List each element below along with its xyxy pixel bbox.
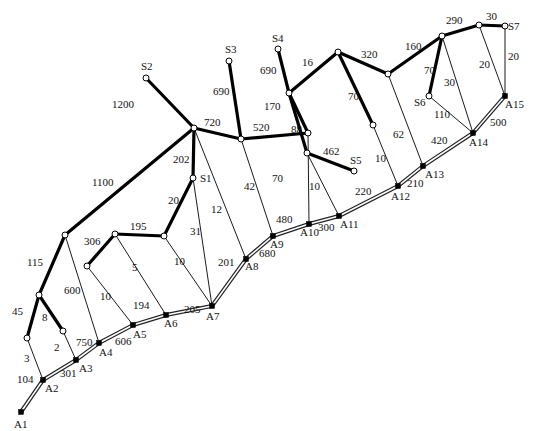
thick-pipe-length-label: 1100 bbox=[92, 176, 114, 188]
thin-pipe-J8-A3 bbox=[63, 331, 76, 360]
trunk-segment-length-label: 300 bbox=[318, 221, 335, 233]
open-node-J720 bbox=[191, 125, 197, 131]
open-node-J8 bbox=[60, 328, 66, 334]
open-node-J306 bbox=[84, 263, 90, 269]
thin-pipe-length-label: 110 bbox=[434, 108, 451, 120]
source-node-label: S3 bbox=[225, 43, 237, 55]
thick-pipe-length-label: 306 bbox=[84, 235, 101, 247]
thick-pipe-length-label: 462 bbox=[323, 145, 340, 157]
open-node-Jtop bbox=[335, 49, 341, 55]
thin-pipe-length-label: 31 bbox=[190, 225, 201, 237]
open-node-J290 bbox=[476, 22, 482, 28]
thick-pipe-J720-S2 bbox=[146, 78, 194, 128]
open-node-S6 bbox=[426, 93, 432, 99]
thick-pipe-length-label: 8 bbox=[42, 311, 48, 323]
thick-pipe-J170-S4 bbox=[278, 49, 289, 93]
thin-pipe-length-label: 2 bbox=[54, 341, 60, 353]
open-node-J45 bbox=[24, 335, 30, 341]
pipe-network-diagram: 3260010510311242701010621103020201200720… bbox=[0, 0, 535, 431]
thick-pipe-J115-J45 bbox=[27, 295, 39, 338]
trunk-segment-length-label: 606 bbox=[115, 335, 132, 347]
thick-pipe-length-label: 115 bbox=[27, 256, 44, 268]
thick-pipe-length-label: 290 bbox=[446, 14, 463, 26]
open-node-J1100 bbox=[62, 232, 68, 238]
trunk-node-label: A6 bbox=[164, 317, 178, 329]
thick-pipe-length-label: 170 bbox=[264, 100, 281, 112]
source-node-label: S6 bbox=[414, 96, 426, 108]
open-node-J160 bbox=[439, 33, 445, 39]
thin-pipe-length-label: 70 bbox=[272, 172, 284, 184]
trunk-node-label: A9 bbox=[270, 238, 284, 250]
open-node-S3 bbox=[226, 58, 232, 64]
thick-pipe-J520-S3 bbox=[229, 61, 241, 139]
thin-pipe-length-label: 30 bbox=[444, 76, 456, 88]
thin-pipe-length-label: 20 bbox=[508, 50, 520, 62]
thick-pipe-length-label: 70 bbox=[424, 64, 436, 76]
open-node-S5 bbox=[351, 168, 357, 174]
trunk-node-A4 bbox=[97, 341, 102, 346]
thin-pipe-J88-A10 bbox=[308, 133, 309, 224]
trunk-segment-length-label: 201 bbox=[218, 256, 235, 268]
source-node-label: S1 bbox=[200, 172, 212, 184]
thick-pipe-length-label: 320 bbox=[361, 48, 378, 60]
open-node-S1 bbox=[190, 175, 196, 181]
trunk-segment-length-label: 480 bbox=[276, 213, 293, 225]
trunk-node-A5 bbox=[131, 323, 136, 328]
thick-pipe-length-label: 30 bbox=[486, 10, 498, 22]
thick-pipe-length-label: 20 bbox=[168, 194, 180, 206]
open-node-J195a bbox=[112, 231, 118, 237]
trunk-segment-length-label: 750 bbox=[76, 336, 93, 348]
thick-pipe-J720-J520 bbox=[194, 128, 241, 139]
thin-pipe-length-label: 12 bbox=[211, 203, 222, 215]
thin-pipe-length-label: 600 bbox=[64, 284, 81, 296]
trunk-node-label: A15 bbox=[505, 98, 524, 110]
trunk-node-label: A13 bbox=[425, 168, 444, 180]
thin-pipe-length-label: 10 bbox=[309, 180, 321, 192]
thin-pipe-length-label: 42 bbox=[244, 180, 255, 192]
trunk-segment-length-label: 205 bbox=[184, 303, 201, 315]
trunk-node-label: A11 bbox=[340, 218, 359, 230]
thick-pipe-length-label: 1200 bbox=[112, 98, 135, 110]
trunk-node-label: A10 bbox=[300, 226, 319, 238]
open-node-J320 bbox=[385, 71, 391, 77]
trunk-node-A12 bbox=[396, 184, 401, 189]
thin-pipe-J195b-A7 bbox=[164, 236, 212, 306]
thin-pipe-length-label: 3 bbox=[24, 352, 30, 364]
open-node-J520 bbox=[238, 136, 244, 142]
trunk-segment-length-label: 420 bbox=[431, 134, 448, 146]
open-node-J462 bbox=[304, 150, 310, 156]
open-node-J70 bbox=[370, 122, 376, 128]
thick-pipe-J720-J1100 bbox=[65, 128, 194, 235]
thick-pipe-length-label: 195 bbox=[130, 220, 147, 232]
thick-pipe-J290-S7 bbox=[479, 25, 505, 26]
thin-pipe-length-label: 62 bbox=[393, 128, 404, 140]
thin-pipe-length-label: 10 bbox=[174, 255, 186, 267]
trunk-segment-length-label: 220 bbox=[355, 185, 372, 197]
trunk-node-A7 bbox=[210, 304, 215, 309]
thin-pipe-length-label: 20 bbox=[479, 58, 491, 70]
open-node-J115 bbox=[36, 292, 42, 298]
thick-pipe-length-label: 202 bbox=[173, 153, 190, 165]
thick-pipe-length-label: 45 bbox=[12, 305, 24, 317]
thick-pipe-length-label: 720 bbox=[204, 116, 221, 128]
thick-pipe-length-label: 16 bbox=[302, 56, 314, 68]
thick-pipe-length-label: 690 bbox=[260, 64, 277, 76]
trunk-node-label: A7 bbox=[206, 310, 220, 322]
trunk-node-label: A8 bbox=[245, 260, 259, 272]
trunk-node-label: A5 bbox=[133, 328, 147, 340]
trunk-segment-length-label: 210 bbox=[407, 177, 424, 189]
trunk-segment-length-label: 194 bbox=[133, 299, 150, 311]
trunk-node-A14 bbox=[471, 131, 476, 136]
thick-pipe-length-label: 88 bbox=[291, 123, 303, 135]
open-node-J170 bbox=[286, 90, 292, 96]
source-node-label: S5 bbox=[350, 154, 362, 166]
thin-pipe-J320-A13 bbox=[388, 74, 423, 166]
source-node-label: S2 bbox=[141, 60, 153, 72]
open-node-S4 bbox=[275, 46, 281, 52]
trunk-node-label: A12 bbox=[391, 190, 410, 202]
trunk-node-label: A1 bbox=[14, 418, 27, 430]
source-node-label: S4 bbox=[272, 32, 284, 44]
trunk-node-A3 bbox=[74, 358, 79, 363]
thick-pipe-J720-S1 bbox=[193, 128, 194, 178]
trunk-node-A1 bbox=[19, 410, 24, 415]
